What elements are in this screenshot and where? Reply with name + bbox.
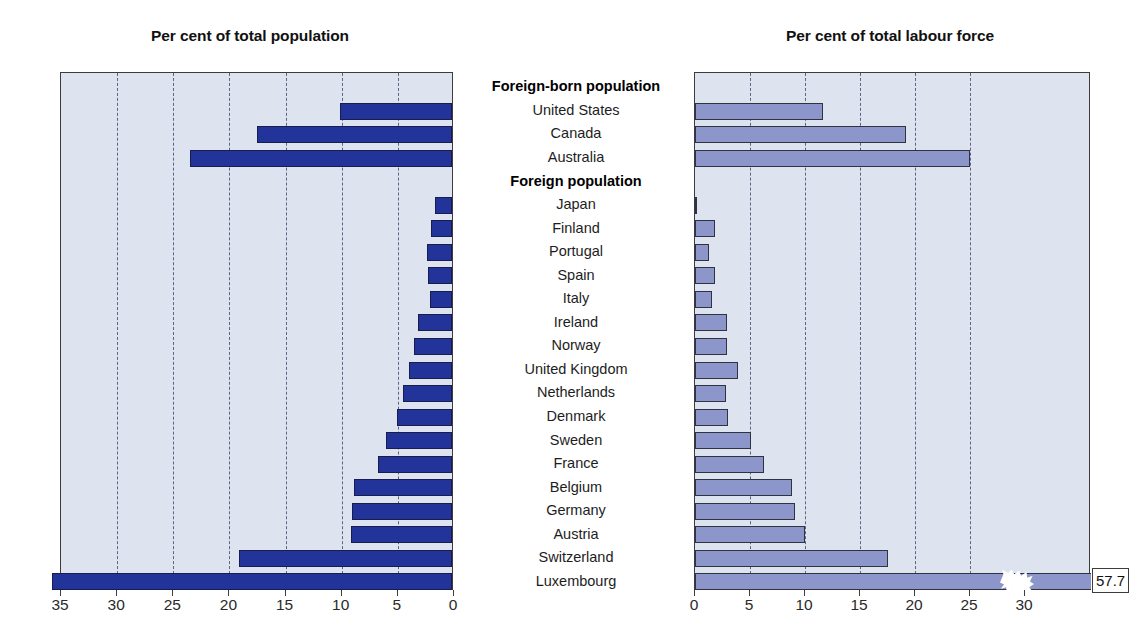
- right-axis-tick-label: 15: [850, 596, 867, 614]
- left-axis-tick-label: 30: [108, 596, 125, 614]
- bar-labour-ireland: [695, 314, 727, 331]
- right-axis-tick-label: 20: [905, 596, 922, 614]
- bar-labour-united-states: [695, 103, 823, 120]
- left-axis-tick-label: 25: [164, 596, 181, 614]
- luxembourg-value-label: 57.7: [1092, 568, 1129, 593]
- bar-population-united-kingdom: [409, 362, 452, 379]
- left-chart-plot-area: [60, 72, 453, 590]
- right-chart-title: Per cent of total labour force: [680, 27, 1100, 45]
- left-axis-tick-label: 5: [393, 596, 402, 614]
- bar-labour-luxembourg: [695, 573, 1091, 590]
- category-label: Luxembourg: [462, 566, 690, 595]
- bar-labour-belgium: [695, 479, 792, 496]
- bar-population-denmark: [397, 409, 452, 426]
- bar-labour-switzerland: [695, 550, 888, 567]
- left-chart-x-axis: 35302520151050: [60, 590, 453, 620]
- bar-population-austria: [351, 526, 452, 543]
- right-axis-tick-label: 30: [1015, 596, 1032, 614]
- bar-labour-germany: [695, 503, 795, 520]
- right-axis-tick-label: 25: [960, 596, 977, 614]
- bar-population-australia: [190, 150, 452, 167]
- left-chart-title: Per cent of total population: [40, 27, 460, 45]
- category-label-column: Foreign-born populationUnited StatesCana…: [462, 72, 690, 590]
- bar-population-japan: [435, 197, 452, 214]
- left-chart-bars: [61, 73, 452, 589]
- bar-labour-japan: [695, 197, 697, 214]
- bar-labour-sweden: [695, 432, 751, 449]
- right-axis-tick-label: 10: [795, 596, 812, 614]
- bar-population-canada: [257, 126, 452, 143]
- bar-population-france: [378, 456, 452, 473]
- bar-population-switzerland: [239, 550, 452, 567]
- left-axis-tick-label: 35: [51, 596, 68, 614]
- bar-labour-portugal: [695, 244, 709, 261]
- bar-labour-canada: [695, 126, 906, 143]
- bar-labour-netherlands: [695, 385, 726, 402]
- bar-population-ireland: [418, 314, 452, 331]
- bar-labour-norway: [695, 338, 727, 355]
- bar-population-belgium: [354, 479, 452, 496]
- bar-population-sweden: [386, 432, 452, 449]
- chart-page: Per cent of total population Per cent of…: [0, 0, 1142, 639]
- right-axis-tick-label: 0: [690, 596, 699, 614]
- right-chart-x-axis: 051015202530: [694, 590, 1090, 620]
- bar-population-italy: [430, 291, 452, 308]
- bar-population-norway: [414, 338, 452, 355]
- right-chart-plot-area: 57.7: [694, 72, 1090, 590]
- left-axis-tick-label: 10: [332, 596, 349, 614]
- bar-population-finland: [431, 220, 452, 237]
- bar-population-united-states: [340, 103, 452, 120]
- bar-labour-austria: [695, 526, 805, 543]
- bar-labour-italy: [695, 291, 712, 308]
- bar-population-portugal: [427, 244, 452, 261]
- bar-labour-australia: [695, 150, 970, 167]
- right-axis-tick-label: 5: [745, 596, 754, 614]
- bar-labour-france: [695, 456, 764, 473]
- bar-population-spain: [428, 267, 452, 284]
- left-axis-tick-label: 0: [449, 596, 458, 614]
- right-chart-bars: 57.7: [695, 73, 1089, 589]
- bar-population-luxembourg: [52, 573, 452, 590]
- bar-labour-finland: [695, 220, 715, 237]
- left-axis-tick-label: 15: [276, 596, 293, 614]
- bar-population-netherlands: [403, 385, 452, 402]
- bar-labour-united-kingdom: [695, 362, 738, 379]
- left-axis-tick-label: 20: [220, 596, 237, 614]
- bar-labour-denmark: [695, 409, 728, 426]
- bar-labour-spain: [695, 267, 715, 284]
- bar-population-germany: [352, 503, 452, 520]
